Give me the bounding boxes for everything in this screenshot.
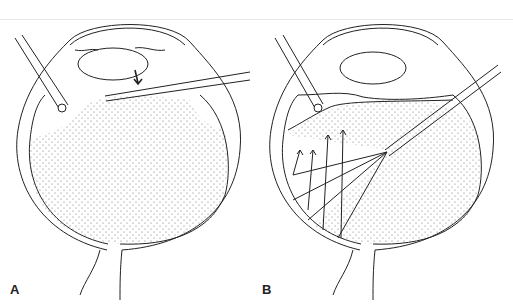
eye-diagram [0,0,513,304]
panel-label-a: A [10,282,19,297]
panel-label-b: B [262,282,271,297]
panel-a-eye [15,25,250,301]
panel-b-eye [270,25,501,301]
